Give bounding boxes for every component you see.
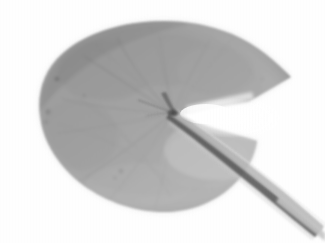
scanned-image-canvas: Grayscale scan of a water lily pad leaf: [0, 0, 325, 243]
global-scan-noise: [0, 0, 325, 243]
lily-pad-illustration: [0, 0, 325, 243]
